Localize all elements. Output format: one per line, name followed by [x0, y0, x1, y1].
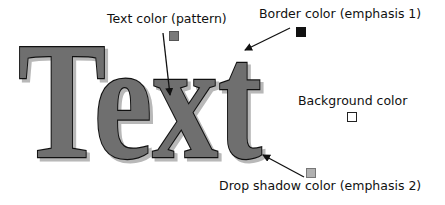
- border-color-label: Border color (emphasis 1): [259, 8, 421, 21]
- drop-shadow-arrow: [263, 155, 304, 177]
- background-color-swatch: [347, 112, 357, 122]
- drop-shadow-color-swatch: [306, 168, 316, 178]
- background-color-label: Background color: [298, 95, 407, 108]
- border-color-swatch: [296, 27, 306, 37]
- sample-text: Text: [18, 7, 262, 193]
- drop-shadow-color-label: Drop shadow color (emphasis 2): [219, 180, 421, 193]
- text-color-swatch: [169, 31, 179, 41]
- text-color-label: Text color (pattern): [107, 13, 227, 26]
- text-style-diagram: Text Text Text color (pattern) Border co…: [0, 0, 445, 205]
